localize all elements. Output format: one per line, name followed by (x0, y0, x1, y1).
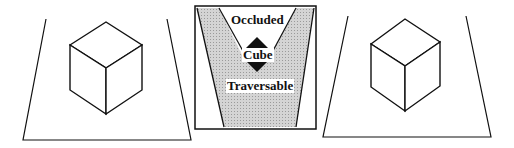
left-cube-icon (70, 22, 142, 114)
cube-label: Cube (242, 48, 274, 62)
occluded-label: Occluded (230, 13, 285, 27)
right-cube-icon (371, 19, 440, 111)
traversable-label: Traversable (226, 79, 294, 93)
